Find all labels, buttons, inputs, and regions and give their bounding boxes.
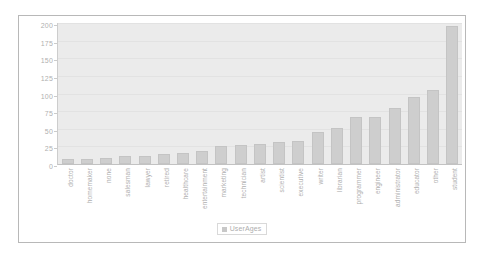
bar[interactable]	[331, 128, 343, 164]
x-axis-tick-label: other	[432, 168, 439, 183]
x-axis-tick-label: salesman	[124, 168, 131, 197]
bar[interactable]	[177, 153, 189, 164]
bar[interactable]	[350, 117, 362, 164]
bar[interactable]	[369, 117, 381, 164]
y-axis-tick-label: 125	[41, 75, 53, 83]
x-axis-label-slot: lawyer	[136, 166, 152, 228]
chart-plot-wrapper: 0255075100125150175200 doctorhomemakerno…	[19, 16, 465, 242]
x-axis-tick-label: technician	[240, 168, 247, 198]
bar[interactable]	[139, 156, 151, 164]
x-axis-label-slot: executive	[289, 166, 305, 228]
bar[interactable]	[427, 90, 439, 164]
x-axis-label-slot: educator	[405, 166, 421, 228]
x-axis-tick-label: programmer	[355, 168, 362, 204]
y-axis-tick-label: 50	[45, 128, 53, 136]
x-axis-tick-label: healthcare	[182, 168, 189, 199]
bar[interactable]	[62, 159, 74, 164]
x-axis-tick-label: executive	[297, 168, 304, 196]
bar[interactable]	[215, 146, 227, 164]
x-axis-label-slot: other	[424, 166, 440, 228]
chart-legend: UserAges	[19, 223, 465, 235]
bar[interactable]	[254, 144, 266, 164]
x-axis-tick-label: marketing	[220, 168, 227, 197]
bar[interactable]	[235, 145, 247, 164]
x-axis-label-slot: entertainment	[193, 166, 209, 228]
bar[interactable]	[446, 26, 458, 164]
x-axis-label-slot: retired	[155, 166, 171, 228]
x-axis-label-slot: programmer	[347, 166, 363, 228]
x-axis-labels: doctorhomemakernonesalesmanlawyerretired…	[57, 166, 461, 228]
x-axis-label-slot: librarian	[328, 166, 344, 228]
x-axis-tick-label: educator	[413, 168, 420, 194]
x-axis-label-slot: writer	[309, 166, 325, 228]
x-axis-tick-label: librarian	[336, 168, 343, 192]
x-axis-tick-label: engineer	[374, 168, 381, 194]
x-axis-tick-label: administrator	[394, 168, 401, 207]
x-axis-label-slot: student	[443, 166, 459, 228]
x-axis-label-slot: salesman	[116, 166, 132, 228]
legend-label: UserAges	[230, 225, 262, 233]
bar[interactable]	[408, 97, 420, 164]
x-axis-label-slot: homemaker	[78, 166, 94, 228]
x-axis-tick-label: retired	[163, 168, 170, 187]
bar[interactable]	[312, 132, 324, 164]
x-axis-tick-label: scientist	[278, 168, 285, 192]
bar[interactable]	[158, 154, 170, 164]
y-axis-tick-label: 175	[41, 40, 53, 48]
x-axis-label-slot: engineer	[366, 166, 382, 228]
y-axis: 0255075100125150175200	[27, 19, 57, 171]
chart-card: 0255075100125150175200 doctorhomemakerno…	[18, 15, 466, 243]
x-axis-tick-label: artist	[259, 168, 266, 183]
x-axis-label-slot: scientist	[270, 166, 286, 228]
x-axis-label-slot: artist	[251, 166, 267, 228]
x-axis-tick-label: entertainment	[201, 168, 208, 209]
y-axis-tick-label: 0	[49, 163, 53, 171]
y-axis-tick-label: 200	[41, 22, 53, 30]
bar-series-UserAges	[58, 23, 462, 164]
x-axis-label-slot: technician	[232, 166, 248, 228]
x-axis-label-slot: healthcare	[174, 166, 190, 228]
legend-square-icon	[222, 227, 227, 232]
x-axis-label-slot: administrator	[386, 166, 402, 228]
bar[interactable]	[273, 142, 285, 164]
x-axis-tick-label: homemaker	[86, 168, 93, 203]
x-axis-label-slot: none	[97, 166, 113, 228]
bar[interactable]	[119, 156, 131, 164]
x-axis-tick-label: none	[105, 168, 112, 183]
bar[interactable]	[196, 151, 208, 164]
x-axis-tick-label: student	[451, 168, 458, 190]
bar[interactable]	[100, 158, 112, 164]
y-axis-tick-label: 100	[41, 93, 53, 101]
plot-area	[57, 23, 462, 165]
x-axis-label-slot: marketing	[212, 166, 228, 228]
x-axis-tick-label: lawyer	[144, 168, 151, 187]
bar[interactable]	[81, 159, 93, 164]
x-axis-tick-label: writer	[317, 168, 324, 185]
y-axis-tick-label: 25	[45, 145, 53, 153]
bar[interactable]	[389, 108, 401, 164]
y-axis-tick-label: 150	[41, 57, 53, 65]
y-axis-tick-label: 75	[45, 110, 53, 118]
x-axis-tick-label: doctor	[67, 168, 74, 187]
x-axis-label-slot: doctor	[59, 166, 75, 228]
legend-item-UserAges[interactable]: UserAges	[217, 223, 268, 235]
bar[interactable]	[292, 141, 304, 164]
